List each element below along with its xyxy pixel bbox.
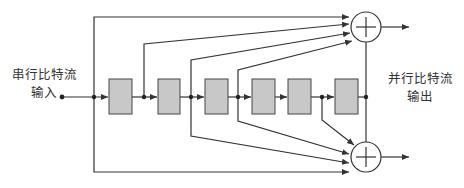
encoder-diagram xyxy=(0,0,464,188)
register-5 xyxy=(288,79,311,114)
register-3 xyxy=(205,79,228,114)
input-dot xyxy=(60,95,65,100)
register-1 xyxy=(109,79,132,114)
bottom-adder xyxy=(351,142,381,172)
register-4 xyxy=(252,79,275,114)
register-6 xyxy=(335,79,358,114)
register-2 xyxy=(158,79,180,114)
top-adder xyxy=(351,12,381,42)
